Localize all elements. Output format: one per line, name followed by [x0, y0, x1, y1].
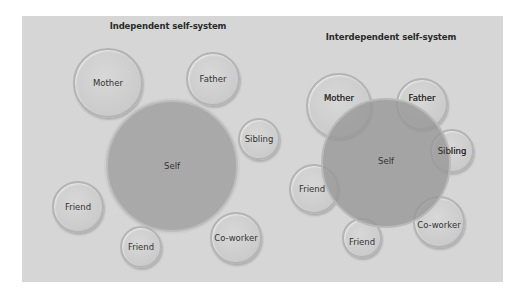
independent-mother-circle: Mother — [73, 48, 143, 118]
independent-coworker-circle: Co-worker — [210, 212, 262, 264]
node-label: Self — [378, 156, 394, 166]
independent-friend-circle-1: Friend — [52, 181, 104, 233]
independent-sibling-circle: Sibling — [238, 118, 280, 160]
independent-self-circle: Self — [106, 100, 238, 232]
node-label: Self — [164, 161, 180, 171]
node-label: Father — [200, 74, 227, 84]
interdependent-self-circle: Self — [321, 98, 451, 228]
independent-friend-circle-2: Friend — [120, 226, 162, 268]
node-label: Father — [409, 93, 436, 103]
node-label: Friend — [299, 184, 325, 194]
independent-title: Independent self-system — [110, 21, 227, 31]
node-label: Mother — [324, 93, 354, 103]
node-label: Friend — [128, 242, 154, 252]
node-label: Mother — [93, 78, 123, 88]
node-label: Co-worker — [417, 220, 460, 230]
node-label: Co-worker — [214, 233, 257, 243]
node-label: Friend — [349, 237, 375, 247]
interdependent-title: Interdependent self-system — [326, 32, 456, 42]
node-label: Sibling — [245, 134, 274, 144]
node-label: Friend — [65, 202, 91, 212]
independent-father-circle: Father — [186, 52, 240, 106]
